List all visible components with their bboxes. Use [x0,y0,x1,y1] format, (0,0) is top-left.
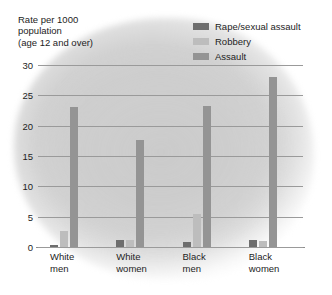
y-axis-tick-label: 30 [22,60,33,71]
plot-area: 051015202530White menWhite womenBlack me… [38,65,303,247]
chart-legend: Rape/sexual assault Robbery Assault [193,19,301,64]
bar [193,214,201,247]
legend-swatch-robbery [193,38,209,45]
bar-group [183,65,211,247]
bar [136,140,144,247]
bar [50,245,58,247]
legend-swatch-assault [193,53,209,60]
bar-group [249,65,277,247]
y-axis-tick-label: 10 [22,181,33,192]
legend-item-rape-sexual-assault: Rape/sexual assault [193,19,301,34]
bar [126,240,134,247]
legend-label-robbery: Robbery [215,36,251,47]
bar [249,240,257,247]
legend-label-rape-sexual-assault: Rape/sexual assault [215,21,301,32]
x-axis-category-label: Black men [183,251,206,274]
gridline [38,247,303,248]
bar [183,242,191,247]
x-axis-category-label: Black women [249,251,280,274]
bar [203,106,211,247]
bar-group [50,65,78,247]
legend-label-assault: Assault [215,51,246,62]
y-axis-tick-label: 25 [22,90,33,101]
legend-item-assault: Assault [193,49,301,64]
bar [60,231,68,247]
y-axis-tick-label: 0 [28,242,33,253]
x-axis-category-label: White women [116,251,147,274]
y-axis-title: Rate per 1000 population (age 12 and ove… [18,14,93,48]
bar-chart-figure: Rate per 1000 population (age 12 and ove… [0,0,332,295]
bar [269,77,277,247]
legend-item-robbery: Robbery [193,34,301,49]
y-axis-tick-label: 20 [22,120,33,131]
y-axis-tick-label: 5 [28,211,33,222]
bar [259,241,267,247]
bar [116,240,124,247]
x-axis-category-label: White men [50,251,74,274]
bar [70,107,78,247]
bar-group [116,65,144,247]
y-axis-tick-label: 15 [22,151,33,162]
legend-swatch-rape-sexual-assault [193,23,209,30]
